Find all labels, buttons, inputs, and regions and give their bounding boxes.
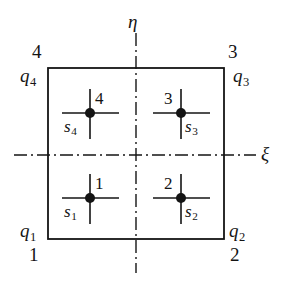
corner-number-2: 2 bbox=[230, 245, 240, 264]
integration-point-4-s-sub: 4 bbox=[71, 125, 77, 137]
integration-point-4-dot bbox=[85, 108, 95, 118]
integration-point-4-number: 4 bbox=[95, 90, 104, 107]
corner-number-1: 1 bbox=[29, 245, 39, 264]
integration-point-2-label: s2 bbox=[185, 203, 198, 222]
integration-point-1-dot bbox=[85, 193, 95, 203]
corner-q-label-4: q4 bbox=[20, 66, 36, 88]
corner-q-sub-2: 2 bbox=[239, 230, 246, 244]
corner-q-label-3: q3 bbox=[233, 66, 249, 88]
integration-point-1-s-base: s bbox=[64, 202, 71, 221]
corner-q-label-1: q1 bbox=[20, 221, 36, 243]
integration-point-3-label: s3 bbox=[185, 118, 198, 137]
integration-point-1-s-sub: 1 bbox=[71, 210, 77, 222]
eta-axis-label: η bbox=[128, 12, 137, 31]
integration-point-3-s-sub: 3 bbox=[192, 125, 198, 137]
corner-number-4: 4 bbox=[32, 42, 42, 61]
integration-point-1-label: s1 bbox=[64, 203, 77, 222]
figure-canvas: η ξ 4 q4 3 q3 q1 1 q2 2 4 s4 3 s3 1 s1 2… bbox=[0, 0, 286, 285]
corner-q-sub-4: 4 bbox=[30, 75, 37, 89]
integration-point-2-s-sub: 2 bbox=[192, 210, 198, 222]
integration-point-4-s-base: s bbox=[64, 117, 71, 136]
corner-q-base-3: q bbox=[233, 65, 243, 86]
corner-q-label-2: q2 bbox=[229, 221, 245, 243]
integration-point-2-cross bbox=[153, 174, 210, 224]
corner-q-sub-3: 3 bbox=[243, 75, 250, 89]
integration-point-3-s-base: s bbox=[185, 117, 192, 136]
integration-point-3-cross bbox=[153, 89, 210, 139]
integration-point-1-number: 1 bbox=[95, 175, 104, 192]
corner-q-base-2: q bbox=[229, 220, 239, 241]
corner-q-sub-1: 1 bbox=[30, 230, 37, 244]
xi-axis-label: ξ bbox=[261, 144, 269, 163]
integration-point-2-number: 2 bbox=[164, 175, 173, 192]
integration-point-2-s-base: s bbox=[185, 202, 192, 221]
corner-number-3: 3 bbox=[228, 42, 238, 61]
integration-point-4-label: s4 bbox=[64, 118, 77, 137]
integration-point-3-number: 3 bbox=[164, 90, 173, 107]
corner-q-base-1: q bbox=[20, 220, 30, 241]
corner-q-base-4: q bbox=[20, 65, 30, 86]
